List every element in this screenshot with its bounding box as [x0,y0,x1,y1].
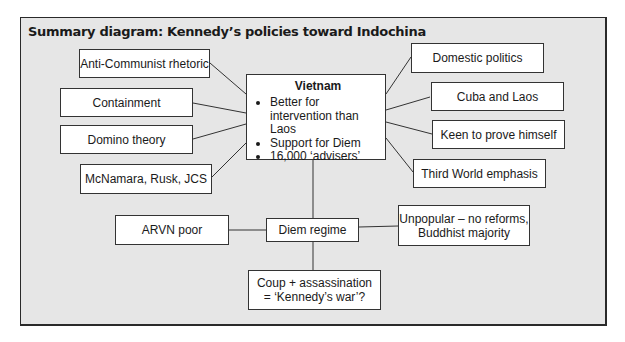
diem-label: Diem regime [278,223,346,237]
factor-label: Anti-Communist rhetoric [80,57,209,71]
coup-box: Coup + assassination = ‘Kennedy’s war’? [248,270,381,310]
factor-label: Third World emphasis [421,167,537,181]
vietnam-bullets: Better for intervention than Laos Suppor… [257,96,379,164]
factor-cuba-and-laos: Cuba and Laos [431,82,564,111]
arvn-label: ARVN poor [142,223,202,237]
factor-label: Keen to prove himself [440,128,556,142]
coup-line2: = ‘Kennedy’s war’? [264,290,365,304]
factor-label: Cuba and Laos [457,90,538,104]
factor-label: Domestic politics [432,51,522,65]
factor-label: McNamara, Rusk, JCS [85,172,207,186]
unpopular-line2: Buddhist majority [418,226,510,240]
vietnam-box: Vietnam Better for intervention than Lao… [246,74,386,160]
bullet-item: Support for Diem [270,137,379,151]
factor-label: Domino theory [87,133,165,147]
factor-third-world-emphasis: Third World emphasis [413,159,546,188]
unpopular-box: Unpopular – no reforms, Buddhist majorit… [398,205,530,246]
factor-containment: Containment [60,88,193,117]
factor-anti-communist-rhetoric: Anti-Communist rhetoric [79,49,210,78]
vietnam-heading: Vietnam [257,79,379,93]
coup-line1: Coup + assassination [257,276,372,290]
factor-domino-theory: Domino theory [60,125,193,154]
unpopular-line1: Unpopular – no reforms, [399,212,528,226]
arvn-poor-box: ARVN poor [115,215,229,245]
factor-label: Containment [92,96,160,110]
bullet-item: 16,000 ‘advisers’ [270,150,379,164]
factor-domestic-politics: Domestic politics [411,43,544,73]
factor-mcnamara-rusk-jcs: McNamara, Rusk, JCS [80,164,212,194]
diem-regime-box: Diem regime [266,218,359,242]
factor-keen-to-prove-himself: Keen to prove himself [432,120,565,149]
bullet-item: Better for intervention than Laos [270,96,379,137]
